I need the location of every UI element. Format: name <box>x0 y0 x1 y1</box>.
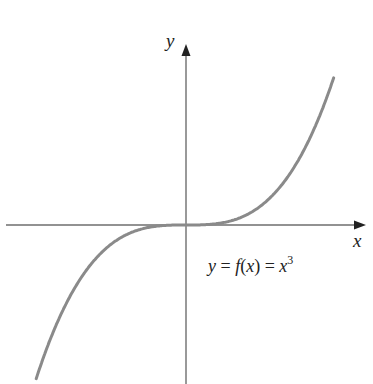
x-axis-arrow-icon <box>354 221 366 230</box>
y-axis-arrow-icon <box>182 44 191 56</box>
fn-close: ) = <box>254 256 279 276</box>
fn-x: x <box>246 256 254 276</box>
x-axis-label: x <box>353 230 361 252</box>
cubic-curve <box>36 78 334 379</box>
cubic-function-chart: y x y = f(x) = x3 <box>0 0 373 384</box>
function-label: y = f(x) = x3 <box>208 256 293 277</box>
fn-eq: = <box>216 256 235 276</box>
plot-area <box>0 0 373 384</box>
y-axis-label: y <box>166 30 174 52</box>
fn-y: y <box>208 256 216 276</box>
fn-exponent: 3 <box>287 253 293 267</box>
